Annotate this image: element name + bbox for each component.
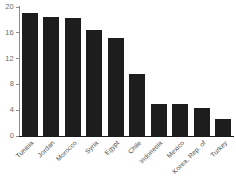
y-axis-tick: 16 — [0, 28, 19, 38]
bar-slot — [22, 7, 38, 136]
x-axis-category-label: Egypt — [103, 139, 120, 156]
x-axis-label-slot: Indonesia — [148, 137, 170, 178]
bar — [108, 38, 124, 136]
bar-slot — [65, 7, 81, 136]
x-axis-category-label: Tunisia — [14, 139, 34, 159]
bar — [65, 18, 81, 136]
y-axis-tick: 20 — [0, 2, 19, 12]
bar-slot — [172, 7, 188, 136]
bar — [215, 119, 231, 136]
x-axis-label-slot: Syria — [84, 137, 106, 178]
y-axis-tick: 12 — [0, 54, 19, 64]
y-axis-tick-label: 20 — [5, 2, 14, 12]
y-axis-tick-label: 0 — [10, 131, 14, 141]
x-axis-category-label: Syria — [83, 139, 99, 155]
bar-chart: 048121620 TunisiaJordanMoroccoSyriaEgypt… — [0, 0, 236, 178]
x-axis-label-slot: Turkey — [213, 137, 235, 178]
y-axis-tick: 4 — [0, 105, 19, 115]
x-axis-category-labels: TunisiaJordanMoroccoSyriaEgyptChileIndon… — [19, 137, 234, 178]
bar-slot — [43, 7, 59, 136]
x-axis-label-slot: Korea, Rep. of — [191, 137, 213, 178]
bar — [129, 74, 145, 136]
y-axis-tick-label: 4 — [10, 105, 14, 115]
y-axis-tick-label: 12 — [5, 54, 14, 64]
bar-slot — [129, 7, 145, 136]
bar-slot — [86, 7, 102, 136]
bar-slot — [151, 7, 167, 136]
bar-slot — [215, 7, 231, 136]
x-axis-category-label: Turkey — [209, 139, 228, 158]
bar — [86, 30, 102, 136]
x-axis-label-slot: Egypt — [105, 137, 127, 178]
x-axis-category-label: Chile — [126, 139, 142, 155]
y-axis-tick-label: 8 — [10, 79, 14, 89]
y-axis-tick-label: 16 — [5, 28, 14, 38]
y-axis-tick: 8 — [0, 79, 19, 89]
x-axis-label-slot: Tunisia — [19, 137, 41, 178]
bar — [194, 108, 210, 136]
bar-series — [19, 7, 234, 136]
bar — [151, 104, 167, 136]
x-axis-label-slot: Morocco — [62, 137, 84, 178]
bar-slot — [194, 7, 210, 136]
y-axis-tick: 0 — [0, 131, 19, 141]
bar — [22, 13, 38, 136]
bar-slot — [108, 7, 124, 136]
bar — [43, 17, 59, 136]
bar — [172, 104, 188, 136]
